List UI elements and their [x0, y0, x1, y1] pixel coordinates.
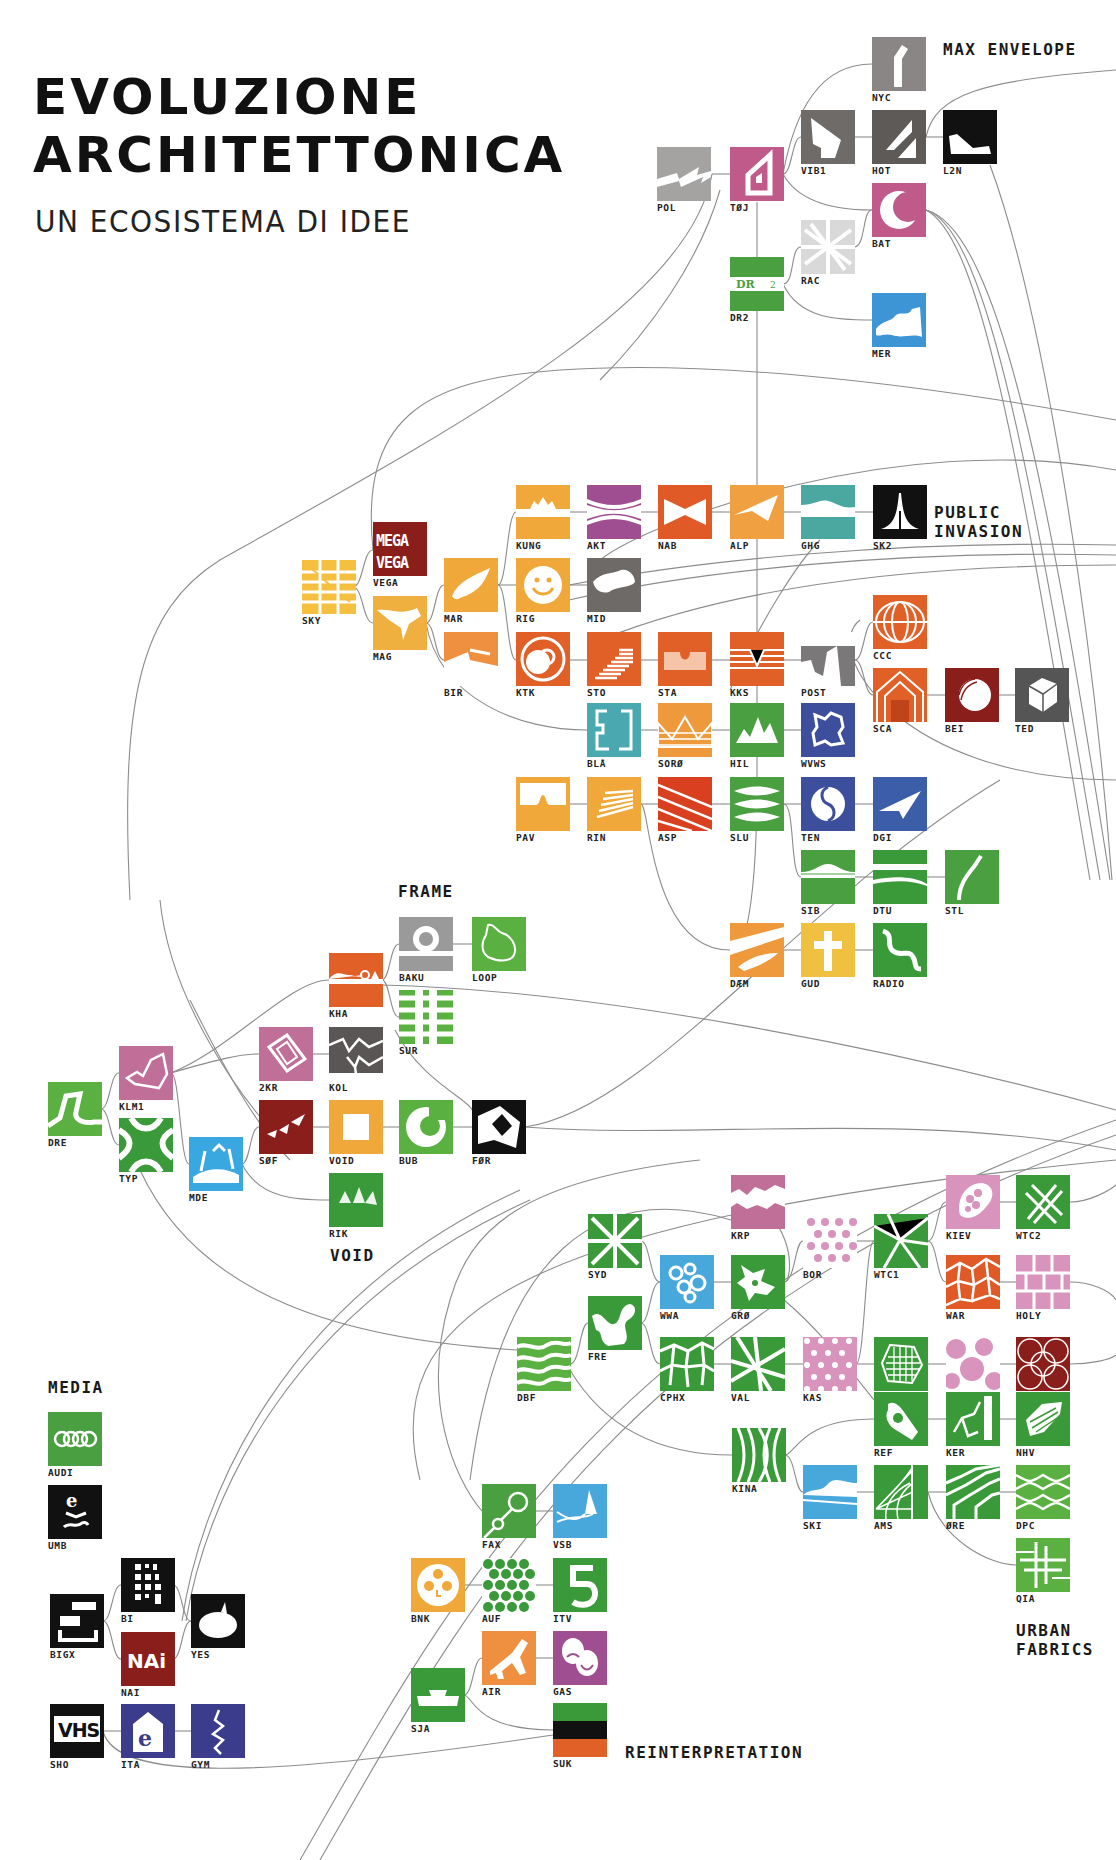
- tile-sur[interactable]: SUR: [399, 990, 453, 1044]
- tile-post[interactable]: POST: [801, 632, 855, 686]
- tile-sib[interactable]: SIB: [801, 850, 855, 904]
- tile-baku[interactable]: BAKU: [399, 917, 453, 971]
- tile-bor[interactable]: BOR: [803, 1214, 857, 1268]
- tile-soro[interactable]: SORØ: [658, 703, 712, 757]
- tile-ted[interactable]: TED: [1015, 668, 1069, 722]
- tile-ten[interactable]: TEN: [801, 777, 855, 831]
- tile-qia[interactable]: QIA: [1016, 1538, 1070, 1592]
- tile-war[interactable]: WAR: [946, 1255, 1000, 1309]
- tile-nyc[interactable]: NYC: [872, 37, 926, 91]
- tile-mde[interactable]: MDE: [189, 1137, 243, 1191]
- tile-wwa[interactable]: WWA: [660, 1255, 714, 1309]
- tile-slu[interactable]: SLU: [730, 777, 784, 831]
- tile-term[interactable]: TERM: [874, 1337, 928, 1391]
- tile-bir[interactable]: BIR: [444, 632, 498, 686]
- tile-wtc1[interactable]: WTC1: [874, 1214, 928, 1268]
- tile-ski[interactable]: SKI: [803, 1465, 857, 1519]
- tile-leeds[interactable]: LEEDS: [946, 1337, 1000, 1391]
- tile-utr[interactable]: UTR: [1016, 1337, 1070, 1391]
- tile-auf[interactable]: AUF: [482, 1558, 536, 1612]
- tile-sto[interactable]: STO: [587, 632, 641, 686]
- tile-kha[interactable]: KHA: [329, 953, 383, 1007]
- tile-gud[interactable]: GUD: [801, 923, 855, 977]
- tile-rik[interactable]: RIK: [329, 1173, 383, 1227]
- tile-bat[interactable]: BAT: [872, 183, 926, 237]
- tile-vib1[interactable]: VIB1: [801, 110, 855, 164]
- tile-stl[interactable]: STL: [945, 850, 999, 904]
- tile-vsb[interactable]: VSB: [553, 1484, 607, 1538]
- tile-void[interactable]: VOID: [329, 1100, 383, 1154]
- tile-val[interactable]: VAL: [731, 1337, 785, 1391]
- tile-bub[interactable]: BUB: [399, 1100, 453, 1154]
- tile-ghg[interactable]: GHG: [801, 485, 855, 539]
- tile-sof[interactable]: SØF: [259, 1100, 313, 1154]
- tile-sta[interactable]: STA: [658, 632, 712, 686]
- tile-kks[interactable]: KKS: [730, 632, 784, 686]
- tile-rin[interactable]: RIN: [587, 777, 641, 831]
- tile-sky[interactable]: SKY: [302, 560, 356, 614]
- tile-dr2[interactable]: DR2DR2: [730, 257, 784, 311]
- tile-krp[interactable]: KRP: [731, 1175, 785, 1229]
- tile-sja[interactable]: SJA: [411, 1668, 465, 1722]
- tile-sca[interactable]: SCA: [873, 668, 927, 722]
- tile-ita[interactable]: eITA: [121, 1704, 175, 1758]
- tile-nhv[interactable]: NHV: [1016, 1392, 1070, 1446]
- tile-dgi[interactable]: DGI: [873, 777, 927, 831]
- tile-ams[interactable]: AMS: [874, 1465, 928, 1519]
- tile-dre[interactable]: DRE: [48, 1082, 102, 1136]
- tile-sk2[interactable]: SK2: [873, 485, 927, 539]
- tile-for[interactable]: FØR: [472, 1100, 526, 1154]
- tile-itv[interactable]: ITV: [553, 1558, 607, 1612]
- tile-mar[interactable]: MAR: [444, 558, 498, 612]
- tile-bigx[interactable]: BIGX: [50, 1594, 104, 1648]
- tile-ccc[interactable]: CCC: [873, 595, 927, 649]
- tile-bi[interactable]: BI: [121, 1558, 175, 1612]
- tile-l2n[interactable]: L2N: [943, 110, 997, 164]
- tile-fre[interactable]: FRE: [588, 1296, 642, 1350]
- tile-ore[interactable]: ØRE: [946, 1465, 1000, 1519]
- tile-alp[interactable]: ALP: [730, 485, 784, 539]
- tile-kas[interactable]: KAS: [803, 1337, 857, 1391]
- tile-asp[interactable]: ASP: [658, 777, 712, 831]
- tile-yes[interactable]: YES: [191, 1594, 245, 1648]
- tile-mid[interactable]: MID: [587, 558, 641, 612]
- tile-kol[interactable]: KOL: [329, 1027, 383, 1081]
- tile-2kr[interactable]: 2KR: [259, 1027, 313, 1081]
- tile-daem[interactable]: DÆM: [730, 923, 784, 977]
- tile-typ[interactable]: TYP: [119, 1118, 173, 1172]
- tile-umb[interactable]: eUMB: [48, 1485, 102, 1539]
- tile-akt[interactable]: AKT: [587, 485, 641, 539]
- tile-kung[interactable]: KUNG: [516, 485, 570, 539]
- tile-kiev[interactable]: KIEV: [946, 1175, 1000, 1229]
- tile-wtc2[interactable]: WTC2: [1016, 1175, 1070, 1229]
- tile-dpc[interactable]: DPC: [1016, 1465, 1070, 1519]
- tile-bei[interactable]: BEI: [945, 668, 999, 722]
- tile-kina[interactable]: KINA: [732, 1428, 786, 1482]
- tile-pav[interactable]: PAV: [516, 777, 570, 831]
- tile-syd[interactable]: SYD: [588, 1214, 642, 1268]
- tile-holy[interactable]: HOLY: [1016, 1255, 1070, 1309]
- tile-fax[interactable]: FAX: [482, 1484, 536, 1538]
- tile-mag[interactable]: MAG: [373, 596, 427, 650]
- tile-cphx[interactable]: CPHX: [660, 1337, 714, 1391]
- tile-ker[interactable]: KER: [946, 1392, 1000, 1446]
- tile-suk[interactable]: SUK: [553, 1703, 607, 1757]
- tile-gro[interactable]: GRØ: [731, 1255, 785, 1309]
- tile-audi[interactable]: AUDI: [48, 1412, 102, 1466]
- tile-nab[interactable]: NAB: [658, 485, 712, 539]
- tile-hot[interactable]: HOT: [872, 110, 926, 164]
- tile-air[interactable]: AIR: [482, 1631, 536, 1685]
- tile-hil[interactable]: HIL: [730, 703, 784, 757]
- tile-sho[interactable]: VHSSHO: [50, 1704, 104, 1758]
- tile-nai[interactable]: NAiNAI: [121, 1632, 175, 1686]
- tile-ktk[interactable]: KTK: [516, 632, 570, 686]
- tile-bnk[interactable]: BNK: [411, 1558, 465, 1612]
- tile-rig[interactable]: RIG: [516, 558, 570, 612]
- tile-gym[interactable]: GYM: [191, 1704, 245, 1758]
- tile-mer[interactable]: MER: [872, 293, 926, 347]
- tile-ref[interactable]: REF: [874, 1392, 928, 1446]
- tile-pol[interactable]: POL: [657, 147, 711, 201]
- tile-loop[interactable]: LOOP: [472, 917, 526, 971]
- tile-radio[interactable]: RADIO: [873, 923, 927, 977]
- tile-bla[interactable]: BLÅ: [587, 703, 641, 757]
